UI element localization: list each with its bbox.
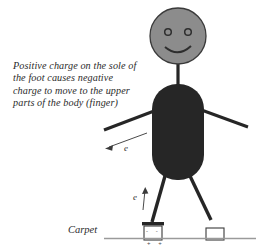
caption-line-2: the foot causes negative: [13, 72, 153, 84]
left-shoe-sole: [142, 222, 164, 225]
caption-line-1: Positive charge on the sole of: [13, 60, 153, 72]
carpet-label: Carpet: [68, 224, 97, 235]
left-eye-icon: [165, 29, 172, 36]
shoe-negative-signs: - -: [146, 228, 161, 234]
electron-arrow-upper-head-icon: [105, 145, 113, 151]
electron-arrow-lower-head-icon: [142, 187, 148, 194]
head-icon: [150, 8, 206, 64]
right-leg: [190, 176, 211, 220]
torso: [152, 84, 204, 180]
caption-line-4: parts of the body (finger): [13, 97, 153, 109]
electrostatics-figure: Positive charge on the sole of the foot …: [0, 0, 262, 252]
electron-label-lower: e: [133, 192, 137, 202]
caption-line-3: charge to move to the upper: [13, 85, 153, 97]
electron-label-upper: e: [124, 143, 128, 153]
left-leg: [152, 176, 165, 222]
right-eye-icon: [185, 29, 192, 36]
carpet-positive-signs: + +: [147, 240, 165, 246]
caption: Positive charge on the sole of the foot …: [13, 60, 153, 110]
electron-arrow-upper-shaft: [109, 133, 147, 147]
stick-figure-drawing: [0, 0, 262, 252]
